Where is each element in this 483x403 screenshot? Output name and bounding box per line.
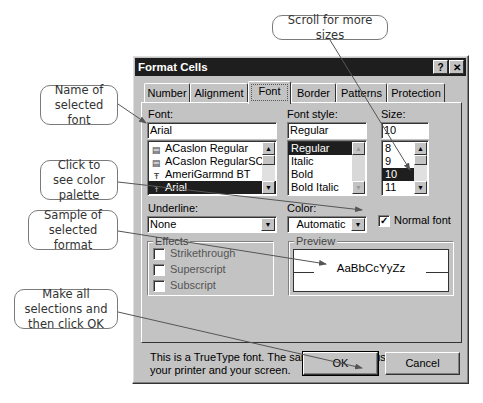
size-input[interactable]: 10 — [381, 122, 429, 139]
font-list[interactable]: ▤ACaslon Regular ▤ACaslon RegularSC ŦAme… — [147, 140, 277, 196]
preview-sample-text: AaBbCcYyZz — [294, 262, 448, 274]
scroll-down-button[interactable]: ▼ — [262, 181, 275, 194]
font-style-scrollbar[interactable]: ▲ ▼ — [352, 142, 365, 194]
close-icon: ✕ — [453, 62, 461, 73]
color-label: Color: — [287, 202, 316, 214]
subscript-label: Subscript — [170, 279, 216, 291]
scroll-down-button[interactable]: ▼ — [414, 181, 427, 194]
chevron-down-icon[interactable]: ▼ — [261, 218, 275, 231]
size-list[interactable]: 8 9 10 11 ▲ ▼ — [381, 140, 429, 196]
font-list-scrollbar[interactable]: ▲ ▼ — [262, 142, 275, 194]
tab-font[interactable]: Font — [248, 81, 291, 104]
format-cells-dialog: Format Cells ? ✕ Number Alignment Font B… — [132, 55, 469, 384]
title-bar: Format Cells ? ✕ — [135, 58, 466, 76]
font-label: Font: — [148, 108, 173, 120]
printer-font-icon: ▤ — [151, 158, 162, 168]
font-style-label: Font style: — [287, 108, 338, 120]
underline-select[interactable]: None ▼ — [147, 216, 277, 233]
font-style-list[interactable]: Regular Italic Bold Bold Italic ▲ ▼ — [287, 140, 367, 196]
preview-box: AaBbCcYyZz — [293, 249, 449, 292]
chevron-down-icon[interactable]: ▼ — [351, 218, 365, 231]
effects-title: Effects — [153, 235, 190, 247]
size-label: Size: — [381, 108, 405, 120]
callout-make-selections: Make all selections and then click OK — [14, 289, 118, 329]
check-icon: ✓ — [380, 215, 388, 226]
scroll-down-button[interactable]: ▼ — [352, 181, 365, 194]
scroll-thumb[interactable] — [414, 155, 427, 165]
callout-scroll-sizes: Scroll for more sizes — [272, 15, 388, 40]
scroll-thumb[interactable] — [262, 155, 275, 165]
tab-alignment[interactable]: Alignment — [190, 83, 248, 103]
truetype-icon: Ŧ — [151, 184, 162, 194]
tab-border[interactable]: Border — [291, 83, 336, 103]
subscript-checkbox[interactable] — [153, 280, 165, 292]
scroll-up-button[interactable]: ▲ — [352, 142, 365, 155]
color-select[interactable]: Automatic ▼ — [287, 216, 367, 233]
preview-baseline-right — [426, 272, 448, 273]
callout-sample-format: Sample of selected format — [28, 210, 118, 250]
ok-button[interactable]: OK — [303, 352, 378, 375]
font-tab-panel: Font: Arial ▤ACaslon Regular ▤ACaslon Re… — [141, 102, 462, 343]
tab-patterns[interactable]: Patterns — [336, 83, 387, 103]
font-list-item-selected[interactable]: ŦArial — [148, 181, 276, 194]
font-style-item-selected[interactable]: Regular — [288, 142, 352, 155]
strikethrough-checkbox[interactable] — [153, 248, 165, 260]
font-list-item[interactable]: ŦAmeriGarmnd BT — [148, 168, 276, 181]
scroll-up-button[interactable]: ▲ — [262, 142, 275, 155]
font-style-input[interactable]: Regular — [287, 122, 367, 139]
effects-group: Effects Strikethrough Superscript Subscr… — [147, 241, 274, 296]
close-button[interactable]: ✕ — [449, 60, 464, 74]
scroll-up-button[interactable]: ▲ — [414, 142, 427, 155]
callout-name-of-font: Name of selected font — [40, 85, 118, 125]
cancel-button[interactable]: Cancel — [385, 352, 460, 375]
font-list-item[interactable]: ▤ACaslon RegularSC — [148, 155, 276, 168]
help-button[interactable]: ? — [433, 60, 448, 74]
printer-font-icon: ▤ — [151, 145, 162, 155]
truetype-icon: Ŧ — [151, 171, 162, 181]
tab-protection[interactable]: Protection — [387, 83, 445, 103]
strikethrough-label: Strikethrough — [170, 247, 235, 259]
help-icon: ? — [437, 62, 443, 73]
superscript-checkbox[interactable] — [153, 264, 165, 276]
preview-group: Preview AaBbCcYyZz — [288, 241, 454, 296]
dialog-title: Format Cells — [138, 61, 208, 73]
size-list-scrollbar[interactable]: ▲ ▼ — [414, 142, 427, 194]
size-item-selected[interactable]: 10 — [382, 168, 414, 181]
tab-number[interactable]: Number — [144, 83, 190, 103]
underline-label: Underline: — [148, 202, 198, 214]
superscript-label: Superscript — [170, 263, 226, 275]
font-list-item[interactable]: ▤ACaslon Regular — [148, 142, 276, 155]
callout-color-palette: Click to see color palette — [40, 160, 118, 200]
normal-font-checkbox[interactable]: ✓ — [378, 215, 390, 227]
font-input[interactable]: Arial — [147, 122, 277, 139]
preview-title: Preview — [294, 235, 337, 247]
normal-font-label: Normal font — [394, 214, 451, 226]
